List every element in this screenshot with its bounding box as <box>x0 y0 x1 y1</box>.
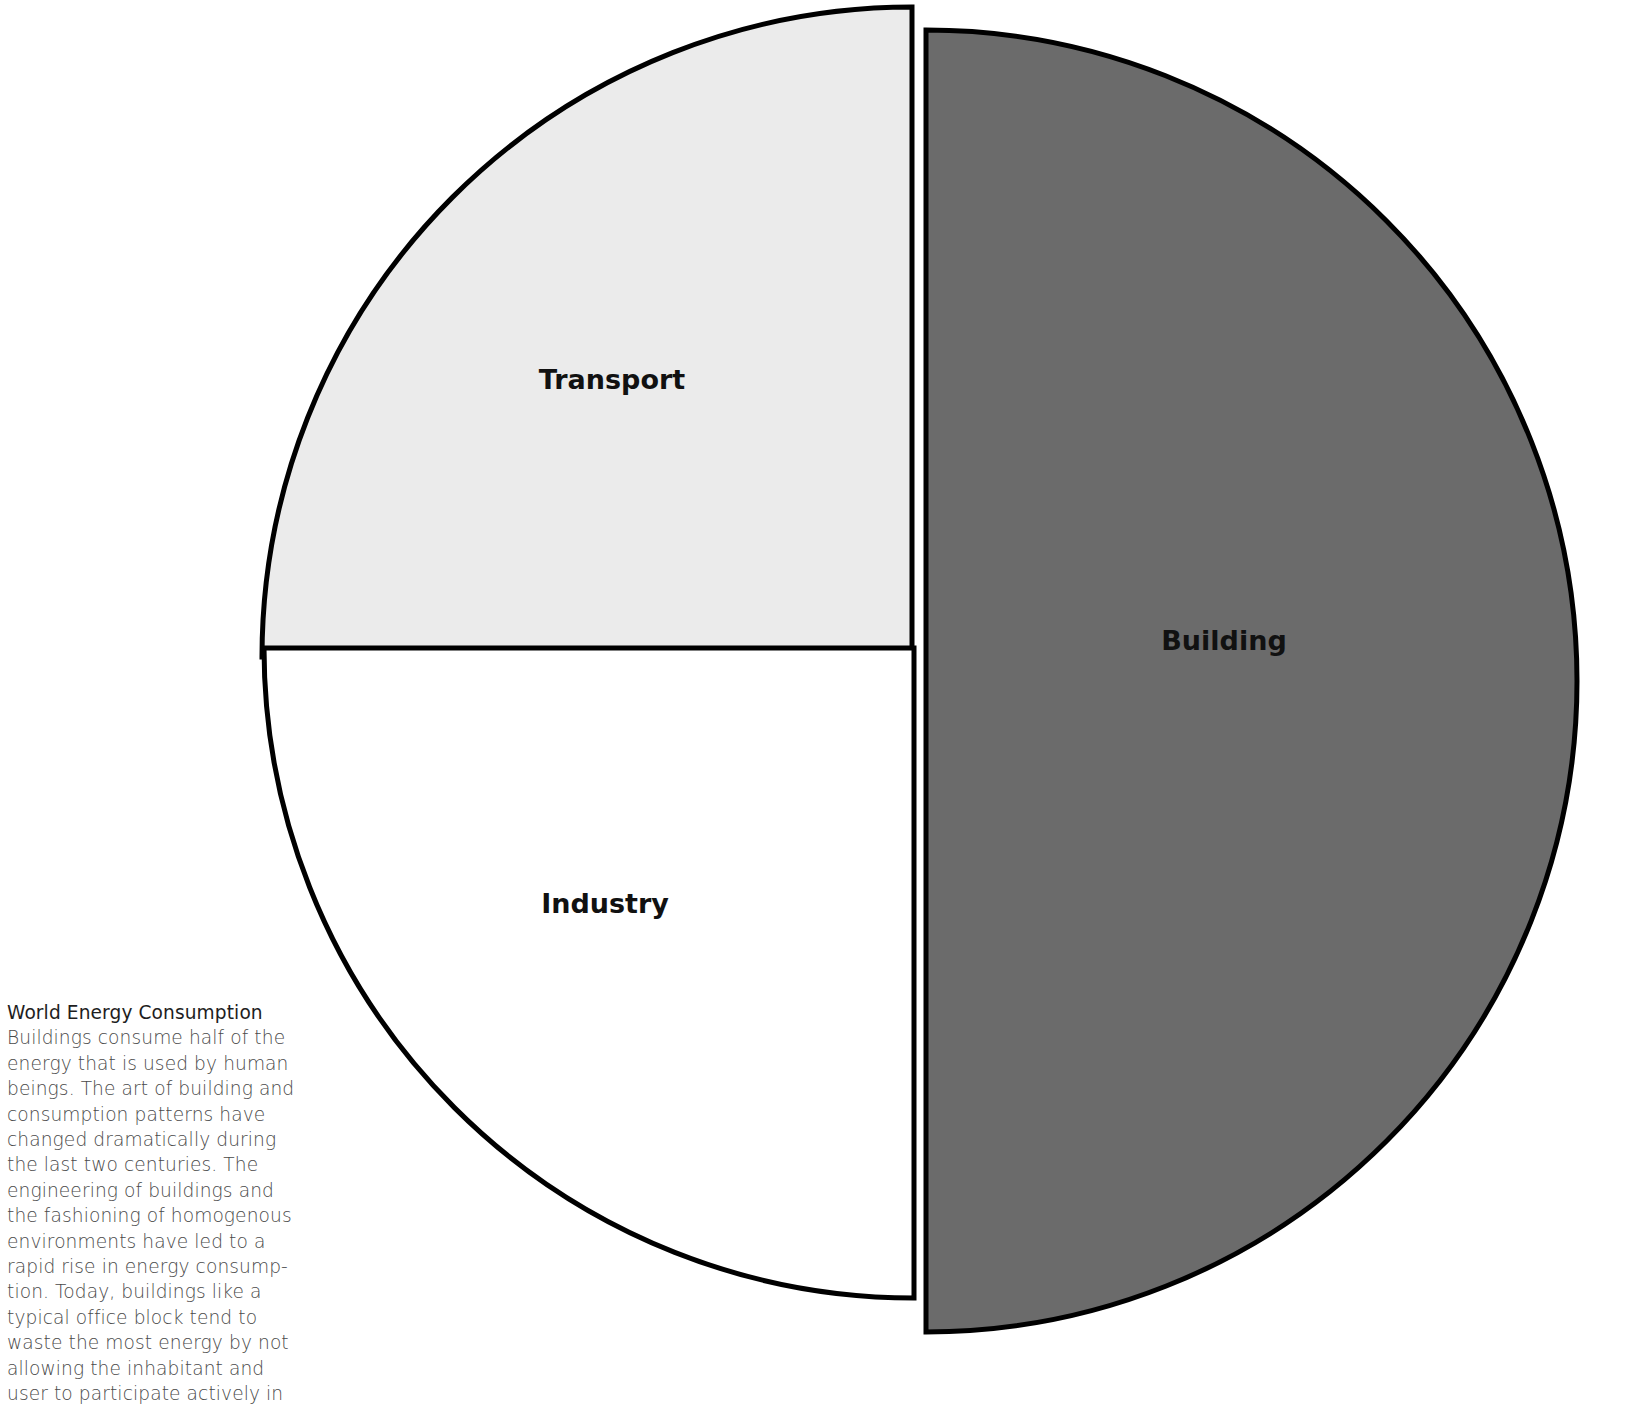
caption-line: changed dramatically during <box>7 1127 292 1152</box>
label-building: Building <box>1161 625 1286 656</box>
caption-line: the fashioning of homogenous <box>7 1203 292 1228</box>
caption-line: allowing the inhabitant and <box>7 1356 292 1381</box>
caption-line: environments have led to a <box>7 1229 292 1254</box>
caption-line: typical office block tend to <box>7 1305 292 1330</box>
slice-transport <box>262 7 912 657</box>
caption-line: waste the most energy by not <box>7 1330 292 1355</box>
caption-line: consumption patterns have <box>7 1102 292 1127</box>
slice-industry <box>264 648 914 1298</box>
caption-line: tion. Today, buildings like a <box>7 1279 292 1304</box>
chart-caption: World Energy Consumption Buildings consu… <box>7 1000 292 1407</box>
slice-building <box>926 30 1577 1332</box>
label-transport: Transport <box>539 364 685 395</box>
label-industry: Industry <box>541 888 669 919</box>
caption-line: user to participate actively in <box>7 1381 292 1406</box>
caption-title: World Energy Consumption <box>7 1000 292 1025</box>
caption-line: energy that is used by human <box>7 1051 292 1076</box>
caption-line: Buildings consume half of the <box>7 1025 292 1050</box>
caption-line: beings. The art of building and <box>7 1076 292 1101</box>
caption-line: engineering of buildings and <box>7 1178 292 1203</box>
caption-line: rapid rise in energy consump- <box>7 1254 292 1279</box>
caption-line: the last two centuries. The <box>7 1152 292 1177</box>
